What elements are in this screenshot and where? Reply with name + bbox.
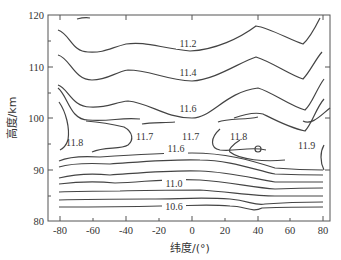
y-tick-labels: 80 90 100 110 120 — [28, 10, 44, 227]
svg-text:-60: -60 — [86, 225, 100, 236]
svg-text:-40: -40 — [119, 225, 133, 236]
svg-text:11.7: 11.7 — [136, 131, 153, 142]
svg-text:0: 0 — [189, 225, 194, 236]
svg-text:11.8: 11.8 — [230, 131, 247, 142]
contour-labels: 11.2 11.4 11.6 11.8 11.7 11.7 11.8 11.9 … — [66, 38, 315, 212]
svg-text:60: 60 — [285, 225, 296, 236]
svg-text:110: 110 — [29, 62, 44, 73]
svg-text:120: 120 — [28, 10, 44, 21]
svg-text:10.6: 10.6 — [165, 201, 183, 212]
x-tick-labels: -80 -60 -40 -20 0 20 40 60 80 — [53, 225, 328, 236]
svg-text:-20: -20 — [152, 225, 166, 236]
svg-text:11.8: 11.8 — [66, 137, 83, 148]
svg-text:80: 80 — [34, 216, 45, 227]
svg-text:90: 90 — [34, 165, 45, 176]
svg-text:100: 100 — [28, 113, 44, 124]
x-axis-label: 纬度/(°) — [170, 241, 210, 255]
svg-text:20: 20 — [220, 225, 231, 236]
svg-text:11.7: 11.7 — [182, 131, 199, 142]
svg-text:11.9: 11.9 — [298, 140, 315, 151]
y-axis-label: 高度/km — [5, 97, 19, 140]
svg-text:40: 40 — [253, 225, 264, 236]
svg-text:80: 80 — [318, 225, 329, 236]
svg-text:11.2: 11.2 — [179, 38, 196, 49]
contour-chart: -80 -60 -40 -20 0 20 40 60 80 80 90 100 … — [0, 0, 341, 260]
svg-text:11.6: 11.6 — [179, 103, 196, 114]
svg-text:-80: -80 — [53, 225, 67, 236]
svg-text:11.0: 11.0 — [165, 178, 182, 189]
svg-text:11.6: 11.6 — [167, 143, 184, 154]
svg-text:11.4: 11.4 — [179, 67, 196, 78]
